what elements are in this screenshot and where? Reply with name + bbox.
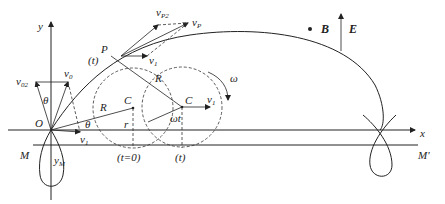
trajectory-loop-right [363, 115, 396, 176]
r-big-label-t0: R [99, 101, 107, 113]
origin-label: O [35, 117, 43, 129]
theta-label-upper: θ [43, 94, 49, 106]
r-big-label-t: R [154, 72, 162, 84]
b-field-label: B [320, 22, 329, 36]
v1-p-label: v1 [149, 54, 157, 68]
x-axis: x [8, 127, 425, 139]
omega-t-label: ωt [170, 112, 182, 124]
y-m-label: yM [53, 154, 66, 168]
v02-label: v02 [16, 75, 28, 89]
c-label-t0: C [124, 94, 132, 106]
c-label-t: C [185, 94, 193, 106]
m-left-label: M [19, 149, 30, 161]
time-mark-t: (t) [175, 151, 186, 164]
v0-label: v0 [64, 67, 73, 81]
omega-label: ω [230, 72, 238, 84]
trajectory-loop-left [39, 130, 63, 186]
e-field-label: E [348, 22, 357, 36]
vp2-label: vP2 [156, 6, 169, 20]
m-right-label: M' [417, 149, 430, 161]
x-axis-label: x [419, 127, 425, 139]
physics-diagram: x y O M M' yM v02 v0 v1 θ θ C R r ( [0, 0, 445, 204]
v1-origin-label: v1 [80, 133, 88, 147]
r-small-label: r [124, 118, 129, 130]
t-label-p: (t) [88, 54, 99, 67]
b-field-dot-icon [308, 27, 312, 31]
field-legend: B E [308, 14, 357, 51]
p-label: P [100, 43, 108, 55]
y-axis: y [37, 20, 51, 200]
vp-label: vP [192, 16, 202, 30]
point-p: P (t) vP2 vP v1 [88, 6, 202, 68]
m-line: M M' [19, 145, 430, 161]
y-axis-label: y [37, 20, 43, 32]
v1-center-label: v1 [207, 93, 215, 107]
time-mark-t0: (t=0) [117, 151, 141, 164]
